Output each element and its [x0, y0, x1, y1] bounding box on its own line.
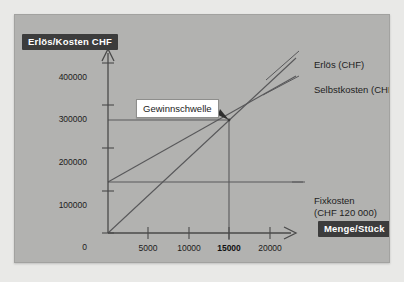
breakeven-point-marker: [228, 119, 231, 122]
series-label-fixkosten: Fixkosten (CHF 120 000): [314, 195, 377, 219]
series-label-fixkosten-line2: (CHF 120 000): [314, 207, 377, 219]
chart-figure: 400000 300000 200000 100000 0 5000 10000…: [14, 14, 390, 263]
y-axis-title-chip: Erlös/Kosten CHF: [22, 34, 118, 50]
series-line-erloes: [108, 58, 296, 233]
x-tick-label-20000: 20000: [243, 244, 297, 253]
leader-line-selbstkosten: [263, 76, 299, 95]
series-label-selbstkosten: Selbstkosten (CHF): [314, 84, 390, 96]
leader-line-erloes: [266, 51, 299, 80]
y-tick-label-100000: 100000: [21, 201, 87, 210]
series-label-fixkosten-line1: Fixkosten: [314, 195, 377, 207]
y-tick-label-300000: 300000: [21, 115, 87, 124]
y-tick-label-400000: 400000: [21, 73, 87, 82]
y-tick-label-0: 0: [21, 243, 87, 252]
breakeven-callout: Gewinnschwelle: [136, 99, 219, 118]
x-axis-title-chip: Menge/Stück: [318, 221, 390, 237]
series-line-selbstkosten: [108, 76, 296, 182]
series-label-erloes: Erlös (CHF): [314, 59, 364, 71]
y-tick-label-200000: 200000: [21, 158, 87, 167]
